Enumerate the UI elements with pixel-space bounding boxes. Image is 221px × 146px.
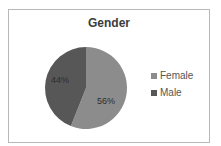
chart-area: Gender 56% 44% Female Male: [8, 9, 210, 143]
pie-label-female: 56%: [97, 96, 115, 106]
legend-item-male: Male: [151, 84, 193, 101]
legend-item-female: Female: [151, 67, 193, 84]
legend-label-female: Female: [160, 70, 193, 81]
legend-swatch-female: [151, 73, 157, 79]
legend-label-male: Male: [160, 87, 182, 98]
legend: Female Male: [151, 67, 193, 101]
legend-swatch-male: [151, 90, 157, 96]
pie-label-male: 44%: [51, 75, 69, 85]
